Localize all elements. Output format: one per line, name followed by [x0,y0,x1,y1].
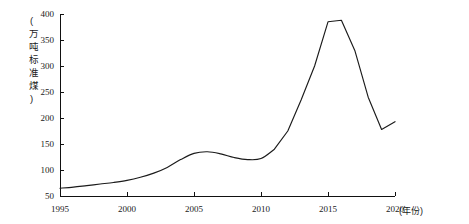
y-axis-label: ( 万 吨 标 准 煤 ) [29,15,39,104]
x-tick-label: 2000 [118,204,137,214]
y-axis-label-text: ( [30,15,34,26]
y-tick-label: 200 [41,113,55,123]
y-tick-label: 400 [41,9,55,19]
x-axis-ticks: 199520002005201020152020 [51,192,405,214]
y-axis-label-text: 万 [29,28,39,39]
y-axis-label-text: ) [30,93,33,104]
y-tick-label: 50 [45,191,55,201]
x-tick-label: 2015 [319,204,338,214]
y-axis-label-text: 准 [29,67,39,78]
line-chart: ( 万 吨 标 准 煤 ) 50100150200250300350400 19… [0,0,469,224]
y-tick-label: 150 [41,139,55,149]
y-axis-label-text: 煤 [29,80,39,91]
y-tick-label: 300 [41,61,55,71]
series-line-energy-consumption [60,20,395,188]
y-tick-label: 250 [41,87,55,97]
y-axis-label-text: 标 [29,54,39,65]
x-tick-label: 1995 [51,204,70,214]
x-axis-unit-label: (年份) [399,205,423,216]
x-tick-label: 2005 [185,204,204,214]
y-tick-label: 100 [41,165,55,175]
x-tick-label: 2010 [252,204,271,214]
y-tick-label: 350 [41,35,55,45]
y-axis-label-text: 吨 [29,41,39,52]
chart-container: ( 万 吨 标 准 煤 ) 50100150200250300350400 19… [0,0,469,224]
